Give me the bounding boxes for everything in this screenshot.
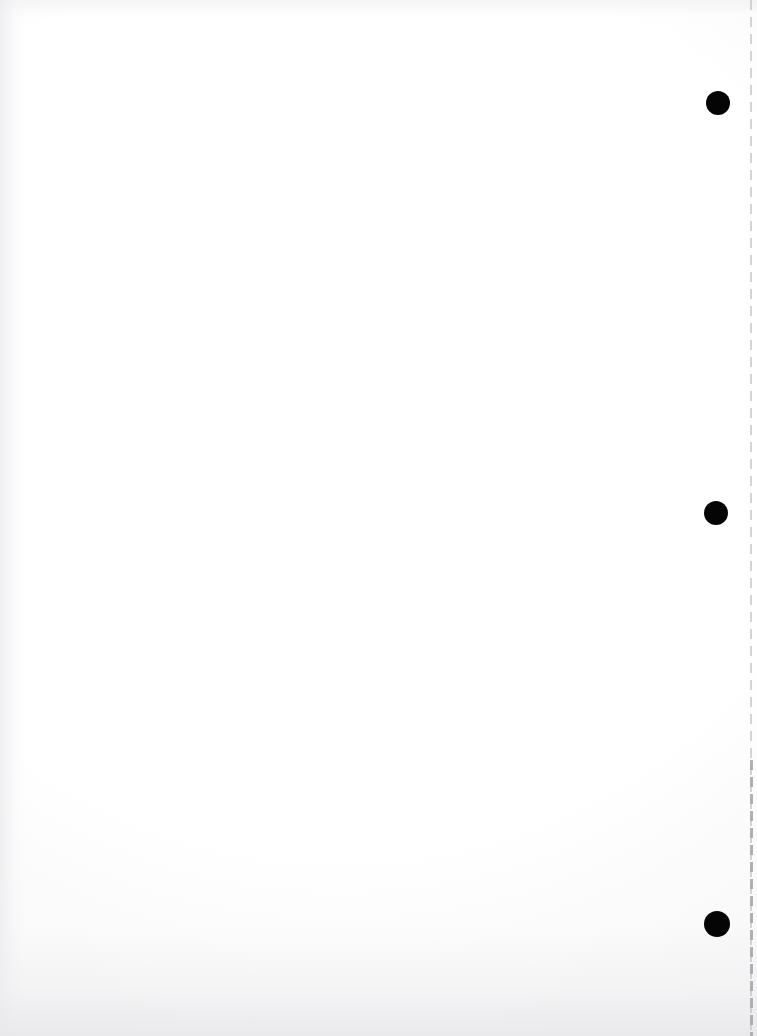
registration-dot-bottom (704, 911, 730, 937)
registration-dot-top (706, 91, 730, 115)
registration-dot-middle (704, 501, 728, 525)
paper-background (0, 0, 757, 1036)
scanned-page (0, 0, 757, 1036)
